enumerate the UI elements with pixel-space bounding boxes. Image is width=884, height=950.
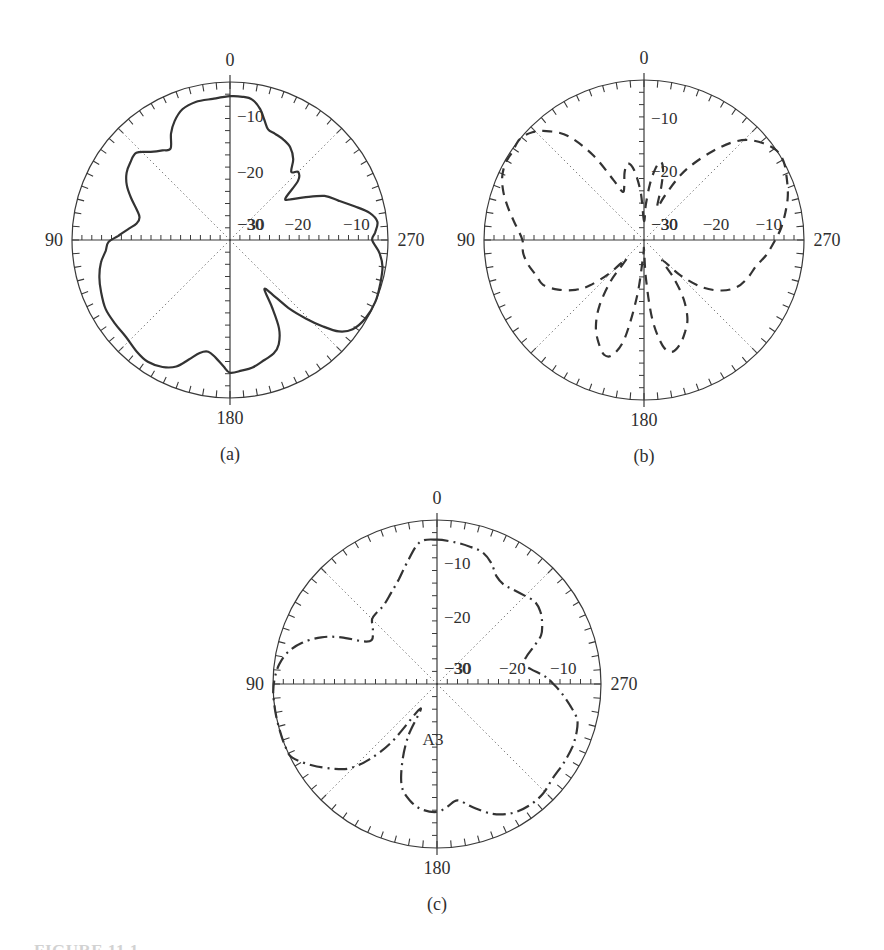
radiation-pattern-figure: 090180270−10−20−30−30−20−10(a)090180270−… xyxy=(0,0,884,950)
angle-label-90: 90 xyxy=(457,230,475,250)
angle-label-180: 180 xyxy=(217,408,244,428)
angle-label-270: 270 xyxy=(814,230,841,250)
diagonal-dotted-line-135 xyxy=(321,684,437,800)
radial-label-horizontal-2: −10 xyxy=(343,215,370,234)
radial-label-vertical-0: −10 xyxy=(651,109,678,128)
radial-label-horizontal-1: −20 xyxy=(285,215,312,234)
angle-label-180: 180 xyxy=(631,410,658,430)
radial-label-horizontal-0: −30 xyxy=(652,215,679,234)
radial-label-horizontal-2: −10 xyxy=(550,659,577,678)
diagonal-dotted-line-225 xyxy=(230,240,342,352)
polar-plots-canvas: 090180270−10−20−30−30−20−10(a)090180270−… xyxy=(0,0,884,950)
subplot-caption: (c) xyxy=(427,894,447,915)
diagonal-dotted-line-45 xyxy=(531,127,644,240)
angle-label-0: 0 xyxy=(226,50,235,70)
radial-label-horizontal-2: −10 xyxy=(756,215,783,234)
radial-label-horizontal-1: −20 xyxy=(703,215,730,234)
axis-annotation: A3 xyxy=(423,730,444,749)
angle-label-0: 0 xyxy=(640,48,649,68)
radial-label-vertical-0: −10 xyxy=(237,107,264,126)
radiation-pattern-curve-dashed xyxy=(502,131,788,357)
angle-label-270: 270 xyxy=(611,674,638,694)
angle-label-180: 180 xyxy=(424,858,451,878)
diagonal-dotted-line-135 xyxy=(118,240,230,352)
angle-label-270: 270 xyxy=(398,230,425,250)
diagonal-dotted-line-225 xyxy=(644,240,757,353)
radial-label-vertical-0: −10 xyxy=(444,554,471,573)
diagonal-dotted-line-225 xyxy=(437,684,553,800)
diagonal-dotted-line-45 xyxy=(118,128,230,240)
diagonal-dotted-line-135 xyxy=(531,240,644,353)
radial-label-vertical-1: −20 xyxy=(444,608,471,627)
diagonal-dotted-line-45 xyxy=(321,568,437,684)
radial-label-horizontal-1: −20 xyxy=(499,659,526,678)
radiation-pattern-curve-solid xyxy=(99,96,382,373)
radial-label-horizontal-0: −30 xyxy=(445,659,472,678)
figure-caption-fragment: FIGURE 11.1 xyxy=(34,941,294,950)
radial-label-vertical-1: −20 xyxy=(237,163,264,182)
radiation-pattern-curve-dash-dot xyxy=(273,539,577,814)
subplot-caption: (b) xyxy=(634,446,655,467)
polar-plot-c: 090180270−10−20−30−30−20−10A3(c) xyxy=(246,488,638,915)
angle-label-90: 90 xyxy=(45,230,63,250)
radial-label-vertical-1: −20 xyxy=(651,162,678,181)
angle-label-0: 0 xyxy=(433,488,442,508)
polar-plot-a: 090180270−10−20−30−30−20−10(a) xyxy=(45,50,425,465)
subplot-caption: (a) xyxy=(220,444,240,465)
angle-label-90: 90 xyxy=(246,674,264,694)
polar-plot-b: 090180270−10−20−30−30−20−10(b) xyxy=(457,48,841,467)
radial-label-horizontal-0: −30 xyxy=(238,215,265,234)
